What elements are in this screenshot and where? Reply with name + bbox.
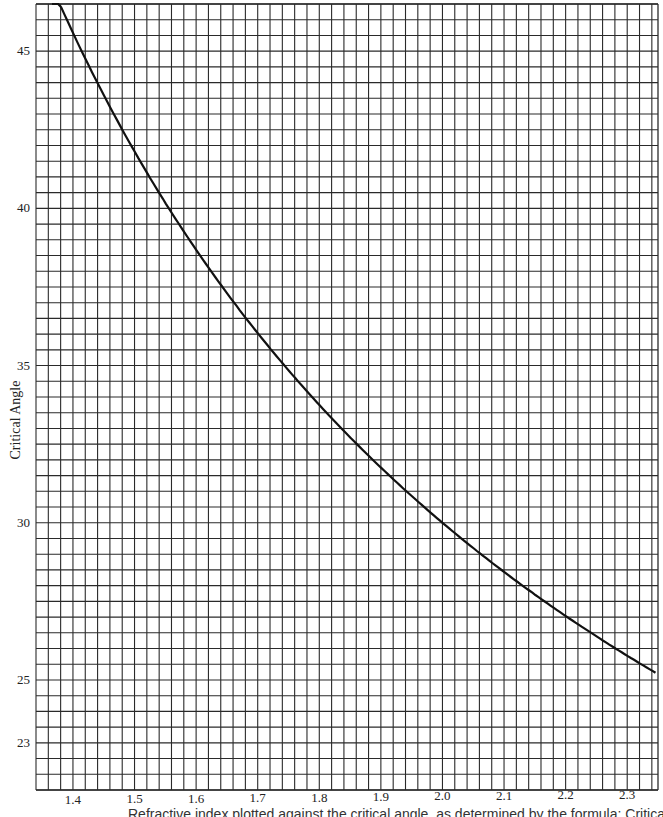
y-tick-label: 30 [17, 515, 30, 530]
x-tick-label: 1.8 [311, 790, 327, 805]
x-tick-label: 2.2 [557, 787, 573, 802]
y-tick-label: 23 [17, 735, 30, 750]
x-tick-label: 1.7 [250, 790, 267, 805]
x-tick-label: 2.3 [619, 787, 635, 802]
y-tick-label: 40 [17, 200, 30, 215]
y-axis-label: Critical Angle [8, 381, 23, 460]
critical-angle-curve [52, 4, 656, 673]
y-tick-label: 25 [17, 672, 30, 687]
x-tick-label: 1.9 [373, 789, 389, 804]
chart-curve [52, 4, 656, 673]
caption-text: Refractive index plotted against the cri… [0, 804, 663, 817]
chart-grid [36, 4, 658, 790]
critical-angle-chart: 454035302523 1.41.51.61.71.81.92.02.12.2… [0, 0, 663, 817]
y-tick-label: 35 [17, 358, 30, 373]
x-tick-label: 2.0 [434, 788, 450, 803]
x-tick-label: 2.1 [496, 788, 512, 803]
y-tick-label: 45 [17, 43, 30, 58]
figure-caption: Refractive index plotted against the cri… [0, 804, 663, 817]
